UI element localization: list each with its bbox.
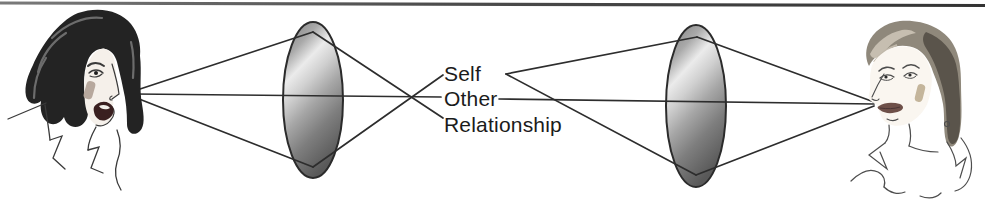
right-lens <box>666 25 726 187</box>
label-self: Self <box>444 61 562 86</box>
label-relationship: Relationship <box>444 112 562 137</box>
right-lens-ellipse <box>666 25 726 187</box>
right-woman-illustration <box>851 21 972 198</box>
label-other: Other <box>444 86 562 111</box>
top-rule <box>0 3 985 6</box>
left-woman-illustration <box>8 10 144 190</box>
lens-labels: Self Other Relationship <box>444 61 562 137</box>
diagram-canvas: Self Other Relationship <box>0 0 985 200</box>
